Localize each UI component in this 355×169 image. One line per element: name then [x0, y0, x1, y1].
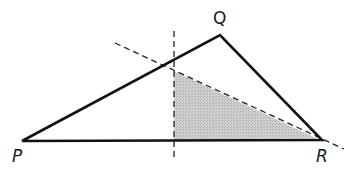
diagram-svg — [0, 0, 355, 169]
triangle-diagram: Q P R — [0, 0, 355, 169]
vertex-label-r: R — [316, 148, 328, 165]
vertex-label-p: P — [12, 148, 22, 165]
shaded-region — [174, 71, 320, 141]
vertex-label-q: Q — [213, 10, 226, 27]
